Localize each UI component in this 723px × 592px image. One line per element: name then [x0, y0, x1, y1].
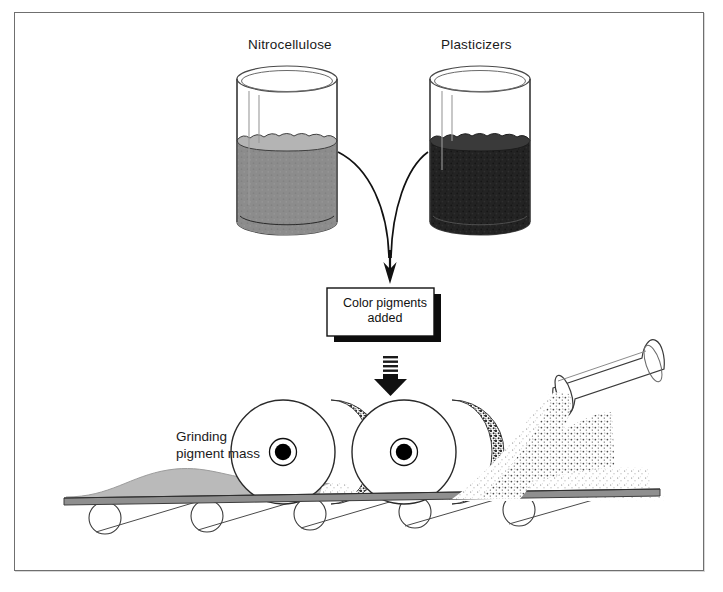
process-box-text: Color pigments added [330, 296, 440, 326]
label-nitrocellulose: Nitrocellulose [248, 37, 332, 52]
label-grinding-pigment-mass: Grinding pigment mass [176, 428, 260, 462]
grinding-roller-2-group [352, 400, 456, 504]
label-grinding-line-1: Grinding [176, 428, 260, 445]
process-box-line-2: added [330, 311, 440, 326]
curved-arrow-from-plasticizers-group [391, 152, 428, 258]
label-grinding-line-2: pigment mass [176, 445, 260, 462]
curved-arrow-from-nitrocellulose-group [338, 152, 389, 258]
label-plasticizers: Plasticizers [441, 37, 512, 52]
plasticizers-beaker-group [430, 66, 530, 235]
converged-arrow-shaft-group [383, 250, 396, 284]
thick-striped-down-arrow-group [374, 356, 407, 396]
process-box-line-1: Color pigments [330, 296, 440, 311]
nitrocellulose-beaker-group [237, 66, 337, 235]
diagram-canvas: Nitrocellulose Plasticizers Grinding pig… [0, 0, 723, 592]
